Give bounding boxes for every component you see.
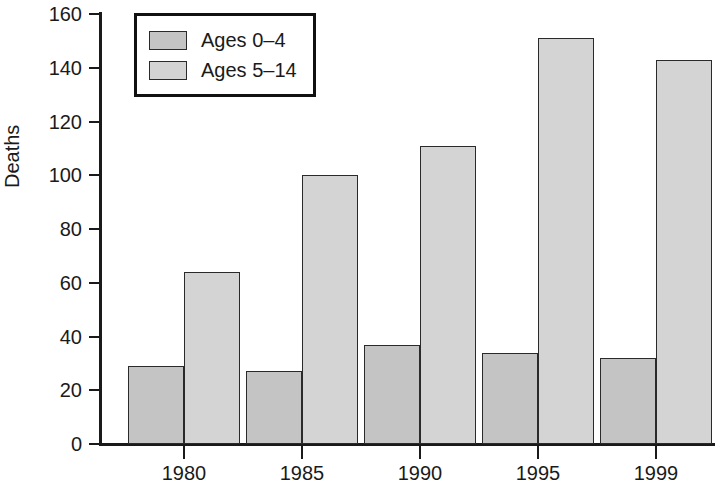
x-axis-tick-label: 1995 [516, 462, 561, 484]
x-axis-tick-label: 1990 [398, 462, 443, 484]
chart-figure: Deaths 020406080100120140160 19801985199… [0, 0, 726, 497]
x-axis-tick [655, 446, 657, 459]
bar [128, 366, 184, 444]
bars-layer [0, 0, 726, 444]
bar [482, 353, 538, 444]
bar [538, 38, 594, 444]
x-axis-tick [537, 446, 539, 459]
x-axis-tick-label: 1980 [162, 462, 207, 484]
legend-item-ages-0-4: Ages 0–4 [149, 25, 297, 55]
bar [600, 358, 656, 444]
legend-label-series-1: Ages 5–14 [201, 59, 297, 81]
legend-item-ages-5-14: Ages 5–14 [149, 55, 297, 85]
bar [420, 146, 476, 444]
legend-swatch-icon-series-0 [149, 31, 187, 50]
x-axis-tick-label: 1999 [634, 462, 679, 484]
x-axis-tick [183, 446, 185, 459]
bar [246, 371, 302, 444]
bar [364, 345, 420, 444]
bar [656, 60, 712, 444]
x-axis-tick [419, 446, 421, 459]
x-axis-tick [301, 446, 303, 459]
x-axis-tick-label: 1985 [280, 462, 325, 484]
legend-swatch-icon-series-1 [149, 61, 187, 80]
bar [302, 175, 358, 444]
chart-legend: Ages 0–4 Ages 5–14 [134, 13, 316, 97]
legend-label-series-0: Ages 0–4 [201, 29, 286, 51]
bar [184, 272, 240, 444]
